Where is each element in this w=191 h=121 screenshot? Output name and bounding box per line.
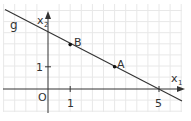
axis-x-sub: 1 [178,79,182,87]
coordinate-diagram: g B A x 2 x 1 O 1 5 1 [0,0,191,121]
grid [3,4,182,112]
arrow-up-icon [45,11,51,19]
point-a-label: A [117,58,125,71]
line-label-g: g [10,18,18,32]
tick-y1-label: 1 [36,61,43,74]
point-b-label: B [74,36,82,49]
point-b [68,43,72,47]
tick-x5-label: 5 [155,97,162,110]
axis-y-sub: 2 [44,21,48,29]
axis-y-label: x [37,14,44,27]
point-a [113,65,117,69]
tick-x1-label: 1 [67,97,74,110]
axis-x-label: x [171,72,178,85]
origin-label: O [38,91,47,104]
